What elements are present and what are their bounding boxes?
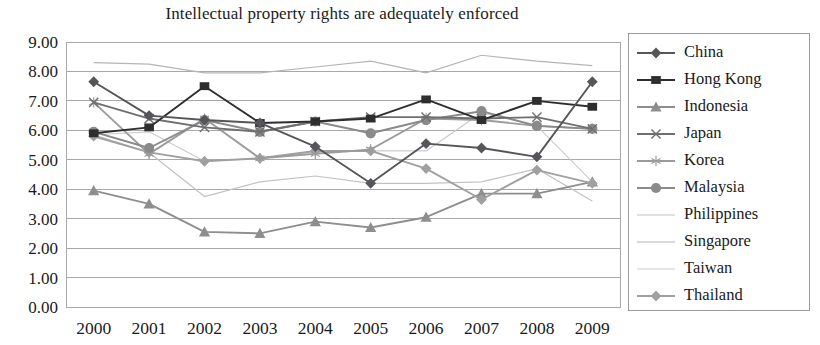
legend-line-icon (635, 206, 677, 224)
legend-label: Indonesia (684, 98, 748, 115)
legend-label: Taiwan (684, 260, 732, 277)
data-point-marker (477, 116, 487, 124)
data-point-marker (651, 47, 662, 58)
legend-diamond-marker-icon (635, 287, 677, 305)
legend-item-indonesia[interactable]: Indonesia (635, 93, 809, 120)
legend-label: Korea (684, 152, 724, 169)
data-point-marker (366, 115, 376, 123)
x-axis-tick-label: 2006 (409, 318, 444, 338)
chart-container: Intellectual property rights are adequat… (0, 0, 820, 345)
y-axis-tick-label: 1.00 (28, 269, 58, 288)
x-axis-tick-label: 2005 (353, 318, 388, 338)
data-point-marker (199, 156, 210, 167)
legend-x-marker-icon (635, 125, 677, 143)
legend-label: Hong Kong (684, 71, 761, 88)
x-axis-tick-label: 2008 (519, 318, 554, 338)
x-axis-tick-label: 2003 (242, 318, 277, 338)
data-point-marker (651, 182, 661, 192)
x-axis-tick-label: 2000 (76, 318, 111, 338)
y-axis-tick-label: 9.00 (28, 33, 58, 52)
data-point-marker (651, 290, 662, 301)
legend-square-marker-icon (635, 71, 677, 89)
data-point-marker (651, 76, 661, 84)
data-point-marker (311, 118, 321, 126)
data-point-marker (476, 143, 487, 154)
legend-label: Malaysia (684, 179, 744, 196)
series-line (94, 55, 593, 73)
legend-label: China (684, 44, 723, 61)
data-point-marker (144, 143, 154, 153)
x-axis-tick-label: 2002 (187, 318, 222, 338)
legend-item-hong-kong[interactable]: Hong Kong (635, 66, 809, 93)
y-axis-tick-label: 3.00 (28, 210, 58, 229)
data-point-marker (200, 82, 210, 90)
series-indonesia (88, 176, 598, 238)
data-point-marker (532, 165, 543, 176)
legend-line-icon (635, 260, 677, 278)
legend-triangle-marker-icon (635, 98, 677, 116)
data-point-marker (89, 129, 99, 137)
legend-diamond-marker-icon (635, 44, 677, 62)
chart-legend: ChinaHong KongIndonesiaJapanKoreaMalaysi… (628, 33, 810, 311)
series-hong-kong (89, 82, 597, 137)
legend-item-philippines[interactable]: Philippines (635, 201, 809, 228)
data-point-marker (88, 76, 99, 87)
legend-label: Singapore (684, 233, 751, 250)
legend-item-korea[interactable]: Korea (635, 147, 809, 174)
legend-label: Philippines (684, 206, 758, 223)
data-point-marker (532, 121, 542, 131)
y-axis-tick-label: 2.00 (28, 239, 58, 258)
x-axis-tick-label: 2009 (575, 318, 610, 338)
x-axis-tick-label: 2001 (132, 318, 167, 338)
y-axis-tick-label: 4.00 (28, 180, 58, 199)
series-line (94, 86, 593, 133)
data-point-marker (144, 123, 154, 131)
data-point-marker (587, 178, 598, 189)
series-singapore (94, 55, 593, 73)
data-point-marker (532, 97, 542, 105)
y-axis-tick-label: 8.00 (28, 62, 58, 81)
legend-item-malaysia[interactable]: Malaysia (635, 174, 809, 201)
series-philippines (94, 135, 593, 201)
data-point-marker (421, 95, 431, 103)
series-malaysia (89, 106, 598, 153)
legend-asterisk-marker-icon (635, 152, 677, 170)
y-axis-tick-label: 0.00 (28, 298, 58, 317)
legend-item-singapore[interactable]: Singapore (635, 228, 809, 255)
data-point-marker (421, 212, 432, 222)
y-axis-tick-label: 5.00 (28, 151, 58, 170)
legend-line-icon (635, 233, 677, 251)
x-axis-tick-label: 2007 (464, 318, 499, 338)
series-line (94, 135, 593, 201)
legend-item-china[interactable]: China (635, 39, 809, 66)
legend-label: Japan (684, 125, 722, 142)
data-point-marker (421, 163, 432, 174)
data-point-marker (88, 185, 99, 195)
legend-item-japan[interactable]: Japan (635, 120, 809, 147)
legend-circle-marker-icon (635, 179, 677, 197)
legend-item-taiwan[interactable]: Taiwan (635, 255, 809, 282)
legend-item-thailand[interactable]: Thailand (635, 282, 809, 309)
x-axis-tick-label: 2004 (298, 318, 333, 338)
data-point-marker (588, 103, 598, 111)
y-axis-tick-label: 6.00 (28, 121, 58, 140)
data-point-marker (366, 128, 376, 138)
y-axis-tick-label: 7.00 (28, 92, 58, 111)
legend-label: Thailand (684, 287, 743, 304)
